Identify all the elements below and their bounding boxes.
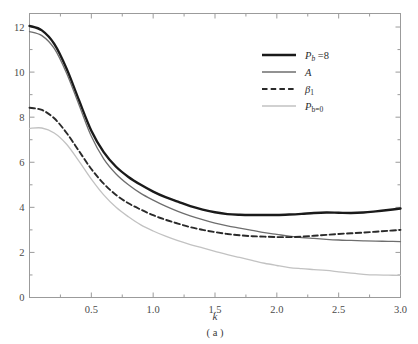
y-tick-label: 8 bbox=[19, 112, 24, 123]
y-tick-label: 4 bbox=[19, 202, 25, 213]
y-tick-label: 12 bbox=[14, 22, 25, 33]
x-tick-label: 2.0 bbox=[270, 304, 283, 315]
y-tick-label: 0 bbox=[19, 292, 24, 303]
legend-label-A: A bbox=[304, 67, 312, 78]
x-tick-label: 1.0 bbox=[147, 304, 160, 315]
y-tick-label: 2 bbox=[19, 247, 24, 258]
x-tick-label: 3.0 bbox=[394, 304, 407, 315]
figure-caption: ( a ) bbox=[207, 327, 224, 339]
y-tick-label: 6 bbox=[19, 157, 24, 168]
line-chart: 0.51.01.52.02.53.0 024681012 Pb =8Aβ1Pb=… bbox=[0, 0, 418, 344]
x-tick-label: 2.5 bbox=[332, 304, 345, 315]
legend-label-pb-8: Pb =8 bbox=[304, 50, 329, 63]
figure-container: 0.51.01.52.02.53.0 024681012 Pb =8Aβ1Pb=… bbox=[0, 0, 418, 344]
x-tick-label: 0.5 bbox=[85, 304, 98, 315]
chart-background bbox=[0, 0, 418, 344]
y-tick-label: 10 bbox=[14, 67, 25, 78]
